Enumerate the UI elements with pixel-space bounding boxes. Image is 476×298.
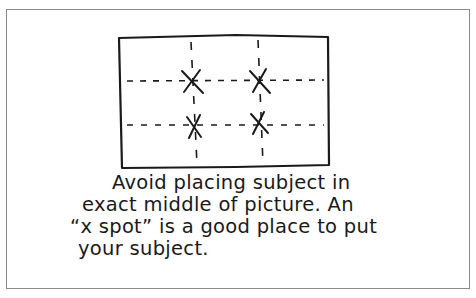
caption-line-1: Avoid placing subject in [60,172,460,194]
x-spot-icon [250,69,270,93]
caption-line-2: exact middle of picture. An [60,194,460,216]
horizontal-third-line-top [127,80,324,81]
x-spot-icon [251,112,268,134]
vertical-third-line-left [191,42,197,164]
caption: Avoid placing subject in exact middle of… [60,172,460,260]
caption-line-4: your subject. [60,238,460,260]
caption-line-3: “x spot” is a good place to put [60,216,460,238]
x-spot-icon [182,70,203,93]
vertical-third-line-right [258,40,263,164]
picture-rectangle [119,35,329,168]
